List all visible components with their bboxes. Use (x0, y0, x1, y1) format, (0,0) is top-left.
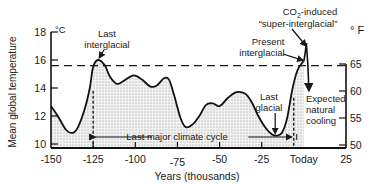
annotation-last-interglacial-1: Last (98, 28, 116, 39)
co2-text: CO (283, 6, 297, 17)
annotation-last-glacial-1: Last (260, 91, 278, 102)
right-tick-label: 50 (350, 139, 362, 151)
left-unit-label: °C (55, 24, 66, 35)
left-tick-label: 18 (34, 26, 46, 38)
natural-cooling-branch (306, 43, 309, 91)
annotation-last-interglacial-2: interglacial (84, 39, 129, 50)
present-arrow (283, 54, 303, 60)
x-tick-label: -25 (254, 153, 269, 165)
last-interglacial-arrow (99, 50, 104, 58)
co2-induced-text: -induced (301, 6, 337, 17)
x-axis-label: Years (thousands) (155, 170, 240, 182)
left-tick-label: 10 (34, 138, 46, 150)
x-tick-label: -75 (170, 156, 185, 168)
temperature-chart: 101214161850556065-150-125-100-75-50-25T… (0, 0, 386, 184)
right-unit-label: ° F (350, 24, 364, 36)
annotation-expected-2: natural (306, 104, 335, 115)
x-tick-label: -50 (212, 153, 227, 165)
co2-arrow (292, 29, 306, 46)
right-tick-label: 60 (350, 85, 362, 97)
annotation-present-2: interglacial (239, 47, 284, 58)
annotation-expected-1: Expected (306, 93, 346, 104)
left-tick-label: 12 (34, 110, 46, 122)
right-tick-label: 55 (350, 112, 362, 124)
left-tick-label: 14 (34, 82, 46, 94)
annotation-last-glacial-2: glacial (256, 102, 283, 113)
x-tick-label: -125 (83, 153, 104, 165)
annotation-co2-2: “super-interglacial” (259, 18, 338, 29)
annotation-cycle: Last major climate cycle (126, 131, 227, 142)
x-tick-label: -100 (125, 153, 146, 165)
annotation-present-1: Present (252, 36, 285, 47)
right-tick-label: 65 (350, 58, 362, 70)
x-tick-label: -150 (40, 153, 61, 165)
left-tick-label: 16 (34, 54, 46, 66)
y-axis-label: Mean global temperature (7, 36, 18, 148)
x-tick-label: 25 (340, 153, 352, 165)
x-tick-label: Today (290, 153, 319, 165)
annotation-expected-3: cooling (306, 115, 336, 126)
